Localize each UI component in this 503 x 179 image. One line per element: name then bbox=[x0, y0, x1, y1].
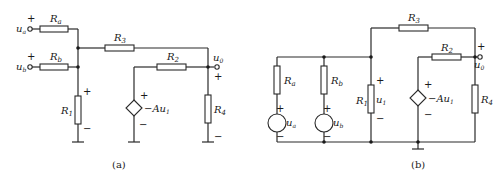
minus-sign: − bbox=[424, 109, 432, 120]
label-dep-source-a: −Au1 bbox=[144, 103, 170, 115]
label-dep-source-b: −Au1 bbox=[428, 93, 454, 105]
junction-dot bbox=[206, 65, 210, 69]
label-ub-a: ub bbox=[16, 61, 26, 73]
panel-b: Ra Rb R1 R3 R2 R4 u1 ua ub u0 −Au1 + − +… bbox=[268, 12, 493, 170]
junction-dot bbox=[416, 140, 420, 144]
voltage-source-ua-icon bbox=[268, 114, 286, 132]
terminal-ua-icon bbox=[28, 27, 32, 31]
minus-sign: − bbox=[83, 123, 91, 134]
label-Rb-a: Rb bbox=[49, 51, 63, 64]
minus-sign: − bbox=[139, 119, 147, 130]
resistor-R3-b bbox=[399, 25, 428, 31]
junction-dot bbox=[76, 46, 80, 50]
label-R3-b: R3 bbox=[407, 12, 421, 25]
caption-b: (b) bbox=[411, 159, 425, 170]
junction-dot bbox=[369, 55, 373, 59]
plus-sign: + bbox=[214, 71, 222, 82]
resistor-Rb-b bbox=[321, 66, 327, 94]
label-u0-b: u0 bbox=[474, 59, 484, 71]
caption-a: (a) bbox=[112, 159, 126, 170]
resistor-R2-a bbox=[157, 64, 186, 70]
plus-sign: + bbox=[276, 103, 284, 114]
panel-a: Ra Rb R3 R2 R1 R4 ua ub u0 −Au1 + + + − … bbox=[16, 13, 226, 170]
plus-sign: + bbox=[424, 79, 432, 90]
junction-dot bbox=[76, 65, 80, 69]
terminal-u0-icon bbox=[215, 65, 219, 69]
label-R1-a: R1 bbox=[60, 105, 73, 118]
plus-sign: + bbox=[140, 90, 148, 101]
label-u0-a: u0 bbox=[213, 52, 223, 64]
voltage-source-ub-icon bbox=[315, 114, 333, 132]
label-Ra-b: Ra bbox=[283, 75, 296, 88]
label-R2-b: R2 bbox=[440, 42, 454, 55]
resistor-R2-b bbox=[432, 54, 461, 60]
terminal-ub-icon bbox=[28, 65, 32, 69]
plus-sign: + bbox=[323, 103, 331, 114]
resistor-Ra-b bbox=[274, 66, 280, 94]
resistor-R4-a bbox=[205, 95, 211, 123]
resistor-R4-b bbox=[472, 85, 478, 113]
resistor-R1-a bbox=[75, 96, 81, 124]
label-R4-a: R4 bbox=[213, 104, 226, 117]
label-R3-a: R3 bbox=[113, 32, 127, 45]
dependent-source-icon-a bbox=[126, 100, 142, 116]
resistor-R1-b bbox=[368, 85, 374, 113]
resistor-Rb-a bbox=[40, 64, 68, 70]
plus-sign: + bbox=[83, 86, 91, 97]
label-ua-b: ua bbox=[286, 117, 296, 129]
label-R4-b: R4 bbox=[480, 94, 493, 107]
junction-dot bbox=[322, 55, 326, 59]
label-u1-b: u1 bbox=[376, 94, 386, 106]
label-ub-b: ub bbox=[333, 117, 343, 129]
plus-sign: + bbox=[376, 75, 384, 86]
resistor-Ra-a bbox=[40, 26, 68, 32]
plus-sign: + bbox=[477, 41, 485, 52]
label-R1-b: R1 bbox=[355, 95, 368, 108]
label-ua-a: ua bbox=[16, 23, 26, 35]
minus-sign: − bbox=[376, 113, 384, 124]
label-R2-a: R2 bbox=[166, 51, 180, 64]
minus-sign: − bbox=[276, 131, 284, 142]
dependent-source-icon-b bbox=[410, 90, 426, 106]
plus-sign: + bbox=[27, 51, 35, 62]
circuit-figure: Ra Rb R3 R2 R1 R4 ua ub u0 −Au1 + + + − … bbox=[0, 0, 503, 179]
plus-sign: + bbox=[27, 13, 35, 24]
junction-dot bbox=[369, 140, 373, 144]
minus-sign: − bbox=[214, 131, 222, 142]
label-Ra-a: Ra bbox=[49, 13, 62, 26]
minus-sign: − bbox=[323, 131, 331, 142]
label-Rb-b: Rb bbox=[330, 75, 344, 88]
resistor-R3-a bbox=[105, 45, 134, 51]
